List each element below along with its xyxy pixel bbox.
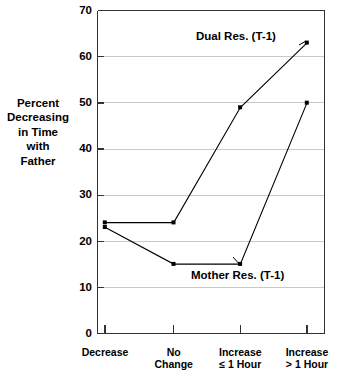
data-point-dual-0 bbox=[103, 220, 107, 224]
y-tick-label-0: 0 bbox=[66, 328, 92, 339]
y-axis-title: Percent Decreasing in Time with Father bbox=[2, 96, 74, 168]
data-point-mother-1 bbox=[172, 262, 176, 266]
y-tick-label-10: 10 bbox=[66, 282, 92, 293]
series-label-dual-res: Dual Res. (T-1) bbox=[196, 30, 276, 42]
series-dual-res bbox=[103, 41, 309, 225]
y-tick-label-70: 70 bbox=[66, 5, 92, 16]
series-mother-res-line bbox=[105, 103, 307, 264]
gridlines bbox=[98, 57, 326, 288]
x-tick-marks bbox=[105, 325, 307, 334]
plot-area bbox=[0, 0, 347, 384]
series-label-mother-res: Mother Res. (T-1) bbox=[191, 269, 284, 281]
y-tick-label-50: 50 bbox=[66, 97, 92, 108]
y-tick-label-20: 20 bbox=[66, 236, 92, 247]
line-chart: Percent Decreasing in Time with Father 7… bbox=[0, 0, 347, 384]
y-tick-label-40: 40 bbox=[66, 143, 92, 154]
series-dual-res-line bbox=[105, 43, 307, 223]
x-tick-label-increase-gt-1hour: Increase > 1 Hour bbox=[264, 346, 347, 371]
y-tick-marks bbox=[98, 11, 105, 334]
y-tick-label-30: 30 bbox=[66, 189, 92, 200]
data-point-mother-3 bbox=[305, 101, 309, 105]
data-point-dual-1 bbox=[172, 220, 176, 224]
data-point-mother-0 bbox=[103, 225, 107, 229]
y-tick-label-60: 60 bbox=[66, 51, 92, 62]
data-point-dual-2 bbox=[238, 105, 242, 109]
annotation-leaders bbox=[233, 41, 306, 265]
